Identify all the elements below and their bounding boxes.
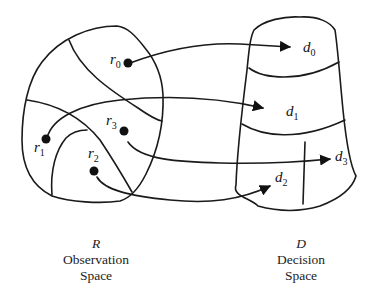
label-d2: d2: [275, 169, 288, 188]
label-d0: d0: [303, 39, 316, 58]
observation-space-symbol: R: [60, 236, 132, 252]
point-r3: [120, 127, 129, 136]
mapping-arrows: [47, 44, 330, 202]
observation-space-title-line2: Space: [60, 268, 132, 284]
decision-space-title-line1: Decision: [265, 252, 337, 268]
observation-space-shape: [22, 26, 163, 202]
label-d1: d1: [286, 103, 299, 122]
decision-space-caption: D Decision Space: [265, 236, 337, 284]
label-d3: d3: [335, 148, 348, 167]
label-r0: r0: [110, 51, 121, 70]
observation-space-caption: R Observation Space: [60, 236, 132, 284]
label-r2: r2: [88, 145, 99, 164]
label-r3: r3: [106, 112, 117, 131]
arrow-r3-d3: [128, 142, 330, 163]
point-r2: [90, 167, 99, 176]
point-r1: [42, 135, 51, 144]
observation-space-title-line1: Observation: [60, 252, 132, 268]
decision-space-title-line2: Space: [265, 268, 337, 284]
point-r0: [124, 59, 133, 68]
decision-space-symbol: D: [265, 236, 337, 252]
